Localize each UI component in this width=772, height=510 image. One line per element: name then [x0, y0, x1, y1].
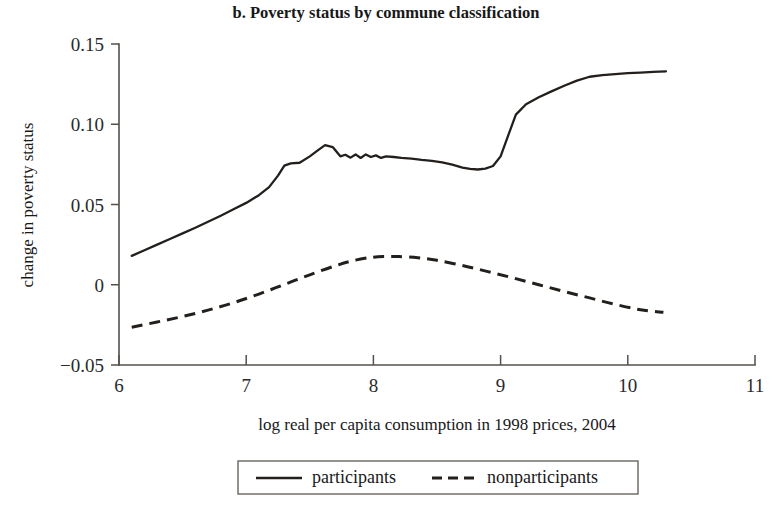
x-tick-label-4: 10 — [618, 375, 637, 396]
y-tick-label-4: 0.15 — [71, 34, 104, 55]
y-tick-label-2: 0.05 — [71, 195, 104, 216]
poverty-status-line-chart: b. Poverty status by commune classificat… — [0, 0, 772, 510]
y-tick-label-0: −0.05 — [60, 355, 104, 376]
legend-label-nonparticipants: nonparticipants — [487, 467, 598, 487]
y-tick-label-3: 0.10 — [71, 114, 104, 135]
x-tick-label-0: 6 — [114, 375, 124, 396]
chart-title: b. Poverty status by commune classificat… — [232, 3, 539, 22]
y-axis-title: change in poverty status — [18, 123, 37, 288]
x-tick-label-2: 8 — [369, 375, 379, 396]
x-tick-label-3: 9 — [496, 375, 506, 396]
y-tick-label-1: 0 — [95, 275, 105, 296]
x-axis-title: log real per capita consumption in 1998 … — [258, 415, 616, 434]
x-tick-label-5: 11 — [746, 375, 764, 396]
legend-label-participants: participants — [312, 467, 396, 487]
chart-legend: participants nonparticipants — [238, 461, 638, 494]
x-tick-label-1: 7 — [241, 375, 251, 396]
